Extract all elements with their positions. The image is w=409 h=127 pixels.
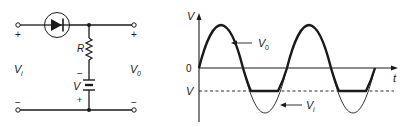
- circuit-diagram: [16, 13, 136, 113]
- waveform-graph: [197, 13, 399, 122]
- svg-text:i: i: [313, 106, 315, 113]
- t-axis-label: t: [393, 72, 397, 84]
- input-voltage-label: V i: [14, 63, 23, 77]
- clipper-circuit-figure: + − + − V i V 0 R − V + V t 0 V V: [0, 0, 409, 127]
- battery-symbol: [83, 80, 95, 90]
- svg-text:i: i: [21, 70, 23, 77]
- svg-text:0: 0: [265, 44, 269, 51]
- battery-label: V: [73, 80, 82, 92]
- vi-pointer-arrow-icon: [280, 103, 286, 108]
- input-plus-terminal: [16, 23, 20, 27]
- output-waveform-v0: [199, 25, 375, 91]
- input-minus-sign: −: [15, 97, 21, 108]
- clip-level-label: V: [186, 85, 195, 97]
- battery-minus-sign: −: [77, 68, 83, 79]
- svg-text:0: 0: [137, 70, 141, 77]
- vi-curve-label: V i: [306, 99, 315, 113]
- resistor-symbol: [86, 38, 92, 60]
- v0-curve-label: V 0: [258, 37, 269, 51]
- y-axis-label: V: [187, 10, 196, 22]
- input-plus-sign: +: [15, 29, 21, 40]
- output-minus-terminal: [132, 108, 136, 112]
- output-voltage-label: V 0: [130, 63, 141, 77]
- resistor-label: R: [77, 43, 84, 54]
- output-minus-sign: −: [131, 97, 137, 108]
- diode-symbol: [44, 13, 70, 38]
- output-plus-terminal: [132, 23, 136, 27]
- y-axis-arrow-icon: [197, 13, 202, 20]
- output-plus-sign: +: [131, 29, 137, 40]
- t-axis-arrow-icon: [391, 66, 398, 71]
- zero-label: 0: [186, 63, 192, 74]
- battery-plus-sign: +: [77, 95, 82, 105]
- input-minus-terminal: [16, 108, 20, 112]
